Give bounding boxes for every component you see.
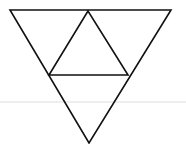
triangle-diagram xyxy=(0,0,186,144)
outer-triangle xyxy=(10,10,171,143)
inner-triangle xyxy=(49,11,128,75)
